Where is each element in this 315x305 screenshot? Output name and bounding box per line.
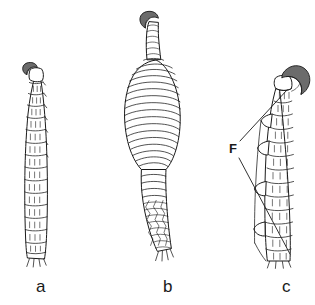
specimen-a-apical-capsule (29, 68, 43, 82)
panel-caption-c: c (282, 278, 291, 295)
figure-plate: .ln { fill:none; stroke:#1a1a1a; stroke-… (0, 0, 315, 305)
illustration-canvas: .ln { fill:none; stroke:#1a1a1a; stroke-… (0, 0, 315, 305)
callout-label-f: F (229, 142, 237, 155)
panel-caption-b: b (163, 278, 172, 295)
panel-caption-a: a (36, 278, 45, 295)
